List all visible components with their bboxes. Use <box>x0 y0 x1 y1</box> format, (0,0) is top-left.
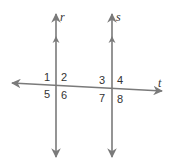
angle-label-5: 5 <box>44 88 50 100</box>
line-label-t: t <box>158 76 162 90</box>
line-label-s: s <box>116 10 121 24</box>
line-s <box>109 14 116 157</box>
angle-label-1: 1 <box>44 71 50 83</box>
line-t <box>12 83 162 91</box>
angle-label-7: 7 <box>99 92 105 104</box>
angle-label-2: 2 <box>61 71 67 83</box>
angle-label-8: 8 <box>117 93 123 105</box>
angle-label-3: 3 <box>99 74 105 86</box>
angle-label-6: 6 <box>61 89 67 101</box>
angle-label-4: 4 <box>117 74 123 86</box>
line-label-r: r <box>60 10 65 24</box>
parallel-lines-transversal-diagram: r s t 1 2 3 4 5 6 7 8 <box>0 0 172 168</box>
